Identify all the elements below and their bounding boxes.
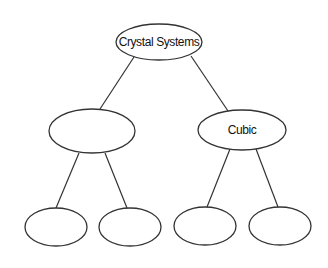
node-cubic-label: Cubic xyxy=(228,123,257,137)
node-cubic: Cubic xyxy=(198,110,286,150)
node-cubic-right xyxy=(249,207,311,245)
crystal-systems-tree: Crystal Systems Cubic xyxy=(0,0,328,268)
edge-cubic-right xyxy=(256,149,278,207)
edge-root-cubic xyxy=(191,56,228,111)
node-left-right xyxy=(99,208,161,246)
node-left-left xyxy=(25,208,87,246)
node-left xyxy=(49,109,135,153)
node-root: Crystal Systems xyxy=(116,24,202,60)
node-root-label: Crystal Systems xyxy=(119,35,200,49)
edge-left-leftleft xyxy=(56,153,79,208)
node-cubic-left xyxy=(174,207,236,245)
edge-left-leftright xyxy=(105,153,127,208)
edge-cubic-left xyxy=(207,149,230,207)
edge-root-left xyxy=(100,57,134,109)
nodes: Crystal Systems Cubic xyxy=(25,24,311,246)
